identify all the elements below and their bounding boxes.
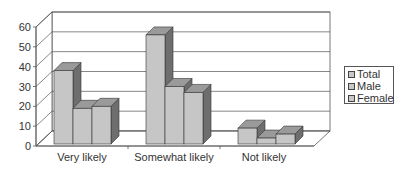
legend-label: Male (357, 80, 381, 92)
legend-swatch-icon (348, 71, 355, 78)
y-axis-ticks: 0102030405060 (19, 21, 31, 152)
bar-chart: 0102030405060 Very likelySomewhat likely… (0, 0, 396, 169)
legend-swatch-icon (348, 83, 355, 90)
legend-item-female: Female (348, 92, 393, 104)
x-category-label: Somewhat likely (134, 151, 214, 163)
y-tick-label: 60 (19, 21, 31, 33)
legend-item-total: Total (348, 68, 393, 80)
y-tick-label: 20 (19, 100, 31, 112)
bar-female-somewhat-likely (184, 84, 211, 144)
x-axis-categories: Very likelySomewhat likelyNot likely (36, 146, 314, 163)
x-category-label: Very likely (57, 151, 107, 163)
y-tick-label: 10 (19, 120, 31, 132)
legend-label: Total (357, 68, 380, 80)
legend-swatch-icon (348, 95, 355, 102)
legend-label: Female (357, 92, 394, 104)
y-tick-label: 0 (25, 140, 31, 152)
bar-female-very-likely (92, 98, 119, 144)
y-tick-label: 50 (19, 41, 31, 53)
y-tick-label: 30 (19, 81, 31, 93)
x-category-label: Not likely (242, 151, 287, 163)
legend: Total Male Female (344, 66, 394, 104)
y-tick-label: 40 (19, 61, 31, 73)
legend-item-male: Male (348, 80, 393, 92)
